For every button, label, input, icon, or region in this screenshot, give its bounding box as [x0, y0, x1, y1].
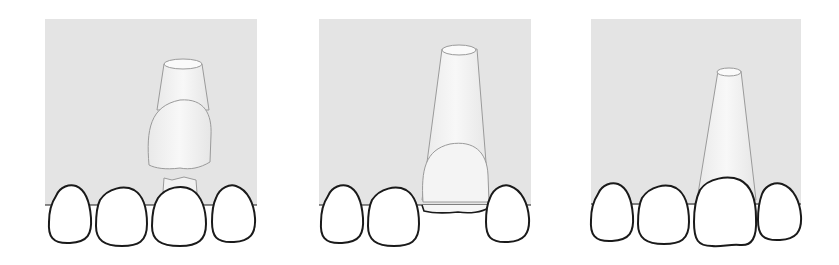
post-top	[442, 45, 476, 55]
panel-background	[45, 19, 257, 205]
post-top	[717, 68, 741, 76]
seated-crown	[694, 178, 756, 247]
panel-step-3	[591, 19, 801, 246]
panel-background	[591, 19, 801, 205]
tooth	[368, 188, 419, 246]
dental-crown-figure: Crown placement onto post (three steps)	[0, 0, 839, 265]
panel-step-1	[45, 19, 257, 246]
panel-step-2	[319, 19, 531, 246]
tooth	[638, 186, 689, 244]
prepared-stump	[422, 205, 490, 213]
post-top	[164, 59, 202, 69]
tooth	[96, 188, 147, 246]
tooth	[152, 187, 206, 246]
